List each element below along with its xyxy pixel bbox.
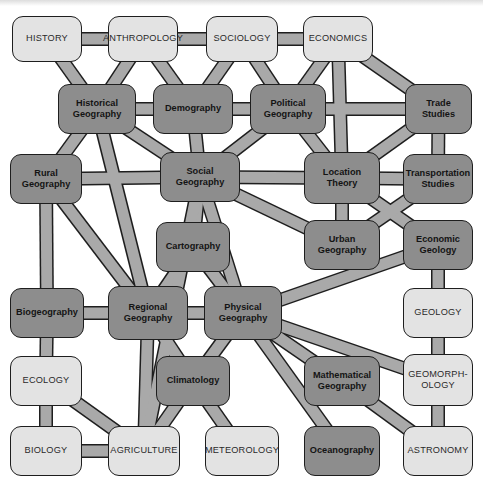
node-label: GEOMORPH- OLOGY	[408, 369, 467, 391]
node-biology: BIOLOGY	[10, 426, 82, 476]
node-label: Rural Geography	[22, 168, 71, 190]
node-label: Location Theory	[323, 167, 361, 189]
node-label: ANTHROPOLOGY	[103, 33, 183, 44]
node-label: ASTRONOMY	[407, 445, 468, 456]
node-label: Economic Geology	[416, 234, 460, 256]
node-label: Regional Geography	[124, 302, 173, 324]
node-label: GEOLOGY	[414, 307, 461, 318]
node-label: Climatology	[167, 375, 220, 386]
node-label: AGRICULTURE	[110, 445, 177, 456]
node-geology: GEOLOGY	[403, 288, 473, 338]
node-label: ECOLOGY	[23, 375, 70, 386]
node-mathematical-geography: Mathematical Geography	[304, 356, 380, 406]
node-social-geography: Social Geography	[160, 152, 240, 202]
node-label: SOCIOLOGY	[214, 33, 271, 44]
node-label: Oceanography	[310, 445, 374, 456]
node-location-theory: Location Theory	[304, 152, 380, 204]
node-geomorphology: GEOMORPH- OLOGY	[403, 354, 473, 406]
node-label: Historical Geography	[73, 98, 122, 120]
node-label: Trade Studies	[422, 98, 455, 120]
node-climatology: Climatology	[156, 356, 230, 406]
geography-relationship-diagram: HISTORY ANTHROPOLOGY SOCIOLOGY ECONOMICS…	[0, 0, 483, 483]
node-astronomy: ASTRONOMY	[403, 426, 473, 476]
node-cartography: Cartography	[156, 222, 230, 272]
node-history: HISTORY	[12, 16, 82, 62]
node-political-geography: Political Geography	[250, 84, 326, 134]
node-label: Mathematical Geography	[313, 370, 371, 392]
node-label: Demography	[165, 103, 221, 114]
node-trade-studies: Trade Studies	[405, 84, 472, 134]
node-agriculture: AGRICULTURE	[108, 426, 180, 476]
node-anthropology: ANTHROPOLOGY	[108, 16, 178, 62]
node-label: BIOLOGY	[25, 445, 68, 456]
node-biogeography: Biogeography	[10, 288, 84, 338]
node-label: Physical Geography	[219, 302, 268, 324]
node-physical-geography: Physical Geography	[204, 286, 282, 340]
node-label: Transportation Studies	[406, 168, 470, 190]
node-label: Social Geography	[176, 166, 225, 188]
node-urban-geography: Urban Geography	[304, 220, 380, 270]
node-meteorology: METEOROLOGY	[205, 426, 279, 476]
node-oceanography: Oceanography	[304, 426, 380, 476]
node-label: Biogeography	[16, 307, 78, 318]
node-transportation-studies: Transportation Studies	[403, 154, 473, 204]
node-sociology: SOCIOLOGY	[206, 16, 278, 62]
node-demography: Demography	[153, 84, 233, 134]
node-label: HISTORY	[26, 33, 68, 44]
node-label: Political Geography	[264, 98, 313, 120]
node-historical-geography: Historical Geography	[58, 84, 136, 134]
node-label: ECONOMICS	[309, 33, 367, 44]
node-economic-geology: Economic Geology	[403, 220, 473, 270]
node-economics: ECONOMICS	[303, 16, 373, 62]
node-label: Cartography	[166, 241, 221, 252]
node-ecology: ECOLOGY	[10, 356, 82, 406]
node-label: Urban Geography	[318, 234, 367, 256]
node-regional-geography: Regional Geography	[108, 286, 188, 340]
node-label: METEOROLOGY	[205, 445, 279, 456]
node-rural-geography: Rural Geography	[10, 154, 82, 204]
